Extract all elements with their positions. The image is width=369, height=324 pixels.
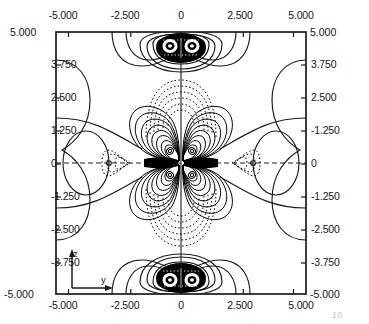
axis-orientation-key <box>69 249 113 291</box>
lobe-upper-right <box>183 106 233 161</box>
contour-plot-canvas <box>0 0 369 324</box>
contour-plot-figure: -5.000 -2.500 0 2.500 5.000 5.000 5.000 … <box>0 0 369 324</box>
lobe-lower-right <box>183 165 233 220</box>
